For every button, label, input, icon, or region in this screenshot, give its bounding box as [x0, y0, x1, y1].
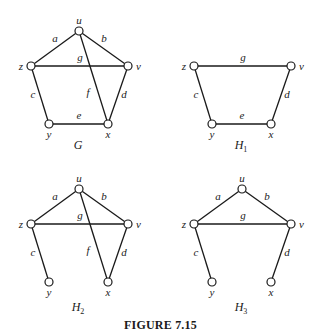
- vertex-label-x: x: [268, 286, 274, 298]
- vertex-z: [190, 62, 198, 70]
- edge-label-c: c: [31, 246, 36, 258]
- vertex-label-u: u: [76, 14, 82, 26]
- vertex-label-v: v: [136, 60, 141, 72]
- edge-label-g: g: [77, 51, 83, 63]
- vertex-label-z: z: [181, 218, 187, 230]
- edge-label-e: e: [240, 109, 245, 121]
- vertex-u: [75, 27, 83, 35]
- graph-h2: abcdfguvxyzH2: [18, 172, 141, 316]
- vertex-label-x: x: [268, 128, 274, 140]
- graph-subscript: 2: [80, 307, 84, 316]
- vertex-label-v: v: [136, 218, 141, 230]
- edge-label-c: c: [31, 88, 36, 100]
- vertex-z: [190, 220, 198, 228]
- vertex-y: [208, 278, 216, 286]
- graph-name-label: H1: [234, 138, 248, 154]
- graph-subscript: 3: [243, 307, 247, 316]
- vertex-z: [27, 220, 35, 228]
- vertex-label-u: u: [239, 172, 245, 184]
- vertex-label-z: z: [181, 60, 187, 72]
- edge-label-a: a: [215, 190, 221, 202]
- vertex-label-v: v: [299, 218, 304, 230]
- vertex-x: [104, 120, 112, 128]
- graph-subscript: 1: [243, 145, 247, 154]
- edge-label-d: d: [121, 88, 127, 100]
- vertex-x: [267, 120, 275, 128]
- vertex-label-y: y: [46, 286, 52, 298]
- edge-label-g: g: [240, 209, 246, 221]
- edge-label-f: f: [86, 244, 91, 256]
- vertex-v: [287, 62, 295, 70]
- edge-label-b: b: [264, 190, 270, 202]
- vertex-x: [104, 278, 112, 286]
- edge-label-b: b: [101, 190, 107, 202]
- graph-name-label: G: [74, 138, 83, 152]
- edge-label-a: a: [52, 190, 58, 202]
- edge-label-d: d: [284, 88, 290, 100]
- edge-label-g: g: [240, 51, 246, 63]
- vertex-u: [238, 185, 246, 193]
- edge-f: [79, 189, 108, 282]
- edge-label-f: f: [86, 86, 91, 98]
- edge-label-d: d: [284, 246, 290, 258]
- vertex-x: [267, 278, 275, 286]
- graph-name-label: H2: [71, 300, 85, 316]
- vertex-v: [124, 220, 132, 228]
- edge-f: [79, 31, 108, 124]
- vertex-y: [45, 278, 53, 286]
- edge-label-a: a: [52, 32, 58, 44]
- graph-g: abcdefguvxyzG: [18, 14, 141, 152]
- edge-label-d: d: [121, 246, 127, 258]
- graph-h1: cdegvxyzH1: [181, 51, 304, 154]
- edge-label-b: b: [101, 32, 107, 44]
- graph-h3: abcdguvxyzH3: [181, 172, 304, 316]
- vertex-v: [287, 220, 295, 228]
- vertex-label-x: x: [105, 128, 111, 140]
- edge-label-c: c: [194, 246, 199, 258]
- vertex-label-y: y: [209, 286, 215, 298]
- vertex-y: [208, 120, 216, 128]
- vertex-label-z: z: [18, 218, 24, 230]
- edge-label-e: e: [77, 109, 82, 121]
- graph-diagram: abcdefguvxyzGcdegvxyzH1abcdfguvxyzH2abcd…: [0, 0, 321, 334]
- edge-label-g: g: [77, 209, 83, 221]
- graph-name-label: H3: [234, 300, 248, 316]
- vertex-label-v: v: [299, 60, 304, 72]
- edge-label-c: c: [194, 88, 199, 100]
- vertex-v: [124, 62, 132, 70]
- vertex-label-z: z: [18, 60, 24, 72]
- vertex-y: [45, 120, 53, 128]
- vertex-label-y: y: [46, 128, 52, 140]
- vertex-u: [75, 185, 83, 193]
- vertex-label-u: u: [76, 172, 82, 184]
- vertex-label-y: y: [209, 128, 215, 140]
- vertex-label-x: x: [105, 286, 111, 298]
- figure-caption: FIGURE 7.15: [0, 318, 321, 333]
- vertex-z: [27, 62, 35, 70]
